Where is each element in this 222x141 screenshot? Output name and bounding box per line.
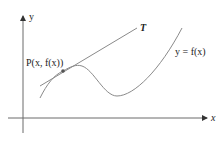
point-p bbox=[61, 69, 65, 73]
curve-label: y = f(x) bbox=[175, 46, 206, 58]
point-label: P(x, f(x)) bbox=[26, 57, 63, 69]
y-axis-label: y bbox=[29, 11, 34, 22]
x-axis-label: x bbox=[210, 112, 216, 123]
tangent-label: T bbox=[140, 22, 147, 33]
tangent-diagram: x y P(x, f(x)) T y = f(x) bbox=[0, 0, 222, 141]
